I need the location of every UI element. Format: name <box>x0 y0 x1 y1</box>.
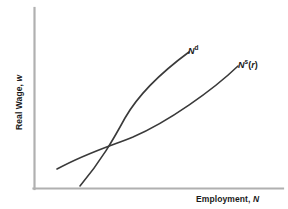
y-axis-variable: w <box>14 75 24 82</box>
labor-demand-curve <box>80 52 189 186</box>
x-axis-title: Employment, N <box>196 194 259 204</box>
labor-market-figure: Real Wage, w Employment, N Nd Ns(r) <box>0 0 288 209</box>
y-axis-title: Real Wage, w <box>12 10 26 130</box>
labor-supply-curve-label: Ns(r) <box>238 60 258 70</box>
x-axis-variable: N <box>253 194 259 204</box>
labor-demand-superscript: d <box>195 44 199 51</box>
y-axis-title-text: Real Wage, <box>14 82 24 131</box>
labor-demand-curve-label: Nd <box>188 46 198 56</box>
x-axis-title-text: Employment, <box>196 194 253 204</box>
labor-supply-curve <box>57 66 238 169</box>
labor-supply-close-paren: ) <box>255 60 258 70</box>
plot-area <box>0 0 288 209</box>
